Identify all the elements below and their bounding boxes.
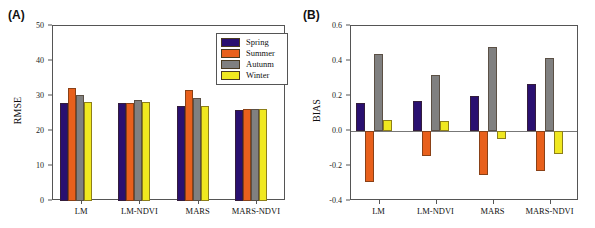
x-axis-category-label: LM-NDVI bbox=[121, 206, 158, 216]
bar-winter-mars bbox=[497, 131, 506, 139]
x-tick-mark bbox=[256, 200, 257, 204]
legend-label: Winter bbox=[246, 70, 269, 81]
y-tick-mark bbox=[346, 60, 350, 61]
y-tick-label: 0.4 bbox=[316, 56, 342, 65]
panel-b: (B) BIAS -0.4-0.20.00.20.40.6LMLM-NDVIMA… bbox=[298, 0, 595, 228]
figure-root: (A) RMSE 01020304050LMLM-NDVIMARSMARS-ND… bbox=[0, 0, 595, 228]
y-tick-mark bbox=[48, 130, 52, 131]
y-tick-label: 20 bbox=[18, 126, 44, 135]
x-tick-mark bbox=[493, 200, 494, 204]
bar-spring-lm bbox=[356, 103, 365, 131]
bar-autunm-mars-ndvi bbox=[251, 109, 259, 201]
bar-summer-mars-ndvi bbox=[243, 109, 251, 201]
bar-autunm-lm-ndvi bbox=[134, 100, 142, 201]
x-tick-mark bbox=[81, 200, 82, 204]
bar-autunm-mars-ndvi bbox=[545, 58, 554, 132]
bar-summer-lm bbox=[365, 131, 374, 182]
bar-summer-lm-ndvi bbox=[126, 103, 134, 201]
y-tick-mark bbox=[48, 200, 52, 201]
y-tick-label: -0.4 bbox=[316, 196, 342, 205]
x-axis-category-label: LM bbox=[372, 206, 385, 216]
bar-winter-mars-ndvi bbox=[554, 131, 563, 154]
bar-summer-lm bbox=[68, 88, 76, 201]
bar-winter-mars bbox=[201, 106, 209, 201]
bar-summer-mars bbox=[479, 131, 488, 175]
legend-item-autunm: Autunm bbox=[221, 59, 282, 70]
x-axis-category-label: MARS bbox=[186, 206, 210, 216]
y-tick-label: -0.2 bbox=[316, 161, 342, 170]
y-tick-mark bbox=[346, 130, 350, 131]
legend-item-summer: Summer bbox=[221, 48, 282, 59]
legend-swatch-icon bbox=[221, 71, 240, 80]
bar-winter-lm-ndvi bbox=[142, 102, 150, 201]
y-tick-mark bbox=[48, 95, 52, 96]
x-axis-category-label: LM bbox=[75, 206, 88, 216]
bar-autunm-lm-ndvi bbox=[431, 75, 440, 131]
y-tick-mark bbox=[346, 165, 350, 166]
legend-item-spring: Spring bbox=[221, 37, 282, 48]
y-tick-mark bbox=[48, 60, 52, 61]
legend-swatch-icon bbox=[221, 49, 240, 58]
y-tick-label: 0.0 bbox=[316, 126, 342, 135]
bar-winter-lm bbox=[84, 102, 92, 201]
x-axis-category-label: MARS-NDVI bbox=[232, 206, 280, 216]
x-axis-category-label: LM-NDVI bbox=[417, 206, 454, 216]
x-tick-mark bbox=[139, 200, 140, 204]
legend-item-winter: Winter bbox=[221, 70, 282, 81]
panel-b-plot-area bbox=[350, 25, 578, 200]
x-tick-mark bbox=[198, 200, 199, 204]
bar-spring-mars-ndvi bbox=[527, 84, 536, 131]
legend: SpringSummerAutunmWinter bbox=[216, 33, 288, 85]
bar-autunm-mars bbox=[193, 98, 201, 201]
bar-summer-lm-ndvi bbox=[422, 131, 431, 156]
x-axis-category-label: MARS bbox=[480, 206, 504, 216]
legend-swatch-icon bbox=[221, 60, 240, 69]
legend-label: Autunm bbox=[246, 59, 274, 70]
y-tick-label: 50 bbox=[18, 21, 44, 30]
y-tick-label: 10 bbox=[18, 161, 44, 170]
bar-autunm-lm bbox=[374, 54, 383, 131]
y-tick-label: 30 bbox=[18, 91, 44, 100]
bar-autunm-lm bbox=[76, 95, 84, 201]
bar-spring-lm bbox=[60, 103, 68, 201]
x-tick-mark bbox=[379, 200, 380, 204]
bar-spring-mars-ndvi bbox=[235, 110, 243, 201]
y-tick-mark bbox=[346, 200, 350, 201]
bar-summer-mars-ndvi bbox=[536, 131, 545, 171]
bar-winter-mars-ndvi bbox=[259, 109, 267, 201]
y-tick-label: 0.2 bbox=[316, 91, 342, 100]
y-tick-mark bbox=[346, 95, 350, 96]
legend-label: Summer bbox=[246, 48, 275, 59]
bar-spring-lm-ndvi bbox=[118, 103, 126, 201]
y-tick-label: 0 bbox=[18, 196, 44, 205]
bar-spring-lm-ndvi bbox=[413, 101, 422, 131]
legend-label: Spring bbox=[246, 37, 269, 48]
x-tick-mark bbox=[436, 200, 437, 204]
x-tick-mark bbox=[550, 200, 551, 204]
bar-winter-lm bbox=[383, 120, 392, 131]
x-axis-category-label: MARS-NDVI bbox=[525, 206, 573, 216]
y-tick-mark bbox=[346, 25, 350, 26]
y-tick-label: 0.6 bbox=[316, 21, 342, 30]
bar-summer-mars bbox=[185, 90, 193, 201]
y-tick-mark bbox=[48, 165, 52, 166]
bar-spring-mars bbox=[470, 96, 479, 131]
legend-swatch-icon bbox=[221, 38, 240, 47]
bar-winter-lm-ndvi bbox=[440, 121, 449, 132]
bar-spring-mars bbox=[177, 106, 185, 201]
y-tick-label: 40 bbox=[18, 56, 44, 65]
y-tick-mark bbox=[48, 25, 52, 26]
bar-autunm-mars bbox=[488, 47, 497, 131]
